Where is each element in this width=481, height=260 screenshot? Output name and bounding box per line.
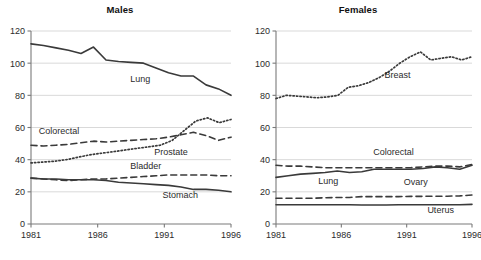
series-label-bladder: Bladder xyxy=(130,161,161,171)
y-tick-label-0: 0 xyxy=(265,219,270,229)
x-tick-label-1981: 1981 xyxy=(21,230,41,240)
series-label-lung: Lung xyxy=(318,176,338,186)
x-tick-label-1981: 1981 xyxy=(266,230,286,240)
y-tick-label-20: 20 xyxy=(15,187,25,197)
series-label-stomach: Stomach xyxy=(163,190,199,200)
x-tick-label-1991: 1991 xyxy=(397,230,417,240)
y-tick-label-20: 20 xyxy=(260,187,270,197)
y-tick-label-100: 100 xyxy=(10,59,25,69)
y-tick-label-40: 40 xyxy=(15,155,25,165)
series-line-lung xyxy=(276,165,472,177)
y-tick-label-120: 120 xyxy=(10,26,25,36)
series-label-colorectal: Colorectal xyxy=(373,147,414,157)
y-tick-label-60: 60 xyxy=(260,123,270,133)
series-label-breast: Breast xyxy=(385,70,412,80)
series-label-ovary: Ovary xyxy=(404,177,429,187)
y-tick-label-80: 80 xyxy=(260,91,270,101)
plot-area-females: 0204060801001201981198619911996BreastCol… xyxy=(240,0,480,260)
series-label-lung: Lung xyxy=(130,74,150,84)
y-tick-label-40: 40 xyxy=(260,155,270,165)
series-line-lung xyxy=(31,44,231,95)
cancer-incidence-figure: Males 0204060801001201981198619911996Lun… xyxy=(0,0,481,260)
y-tick-label-120: 120 xyxy=(255,26,270,36)
y-tick-label-100: 100 xyxy=(255,59,270,69)
y-tick-label-0: 0 xyxy=(20,219,25,229)
series-label-prostate: Prostate xyxy=(154,147,188,157)
y-tick-label-60: 60 xyxy=(15,123,25,133)
chart-panel-males: Males 0204060801001201981198619911996Lun… xyxy=(0,0,240,260)
x-tick-label-1991: 1991 xyxy=(154,230,174,240)
x-tick-label-1986: 1986 xyxy=(88,230,108,240)
plot-area-males: 0204060801001201981198619911996LungColor… xyxy=(0,0,240,260)
x-tick-label-1996: 1996 xyxy=(462,230,481,240)
series-label-colorectal: Colorectal xyxy=(39,126,80,136)
series-line-ovary xyxy=(276,195,472,198)
series-line-breast xyxy=(276,52,472,99)
x-tick-label-1986: 1986 xyxy=(331,230,351,240)
x-tick-label-1996: 1996 xyxy=(221,230,241,240)
chart-panel-females: Females 0204060801001201981198619911996B… xyxy=(240,0,480,260)
y-tick-label-80: 80 xyxy=(15,91,25,101)
series-label-uterus: Uterus xyxy=(427,205,454,215)
